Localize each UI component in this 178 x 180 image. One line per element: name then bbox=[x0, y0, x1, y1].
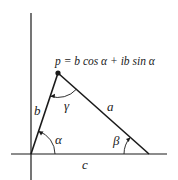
formula-label: p = b cos α + ib sin α bbox=[54, 55, 156, 68]
angle-beta-arrowhead bbox=[126, 137, 130, 142]
side-a-label: a bbox=[107, 99, 114, 114]
triangle-diagram: p = b cos α + ib sin α b a c α β γ bbox=[0, 0, 178, 180]
angle-alpha-label: α bbox=[55, 132, 63, 147]
side-a-line bbox=[58, 73, 149, 154]
point-p bbox=[55, 70, 60, 75]
angle-gamma-label: γ bbox=[64, 98, 70, 113]
diagram-svg: p = b cos α + ib sin α b a c α β γ bbox=[0, 0, 178, 180]
angle-beta-label: β bbox=[112, 133, 120, 148]
side-c-label: c bbox=[82, 157, 88, 172]
side-b-label: b bbox=[34, 103, 41, 118]
